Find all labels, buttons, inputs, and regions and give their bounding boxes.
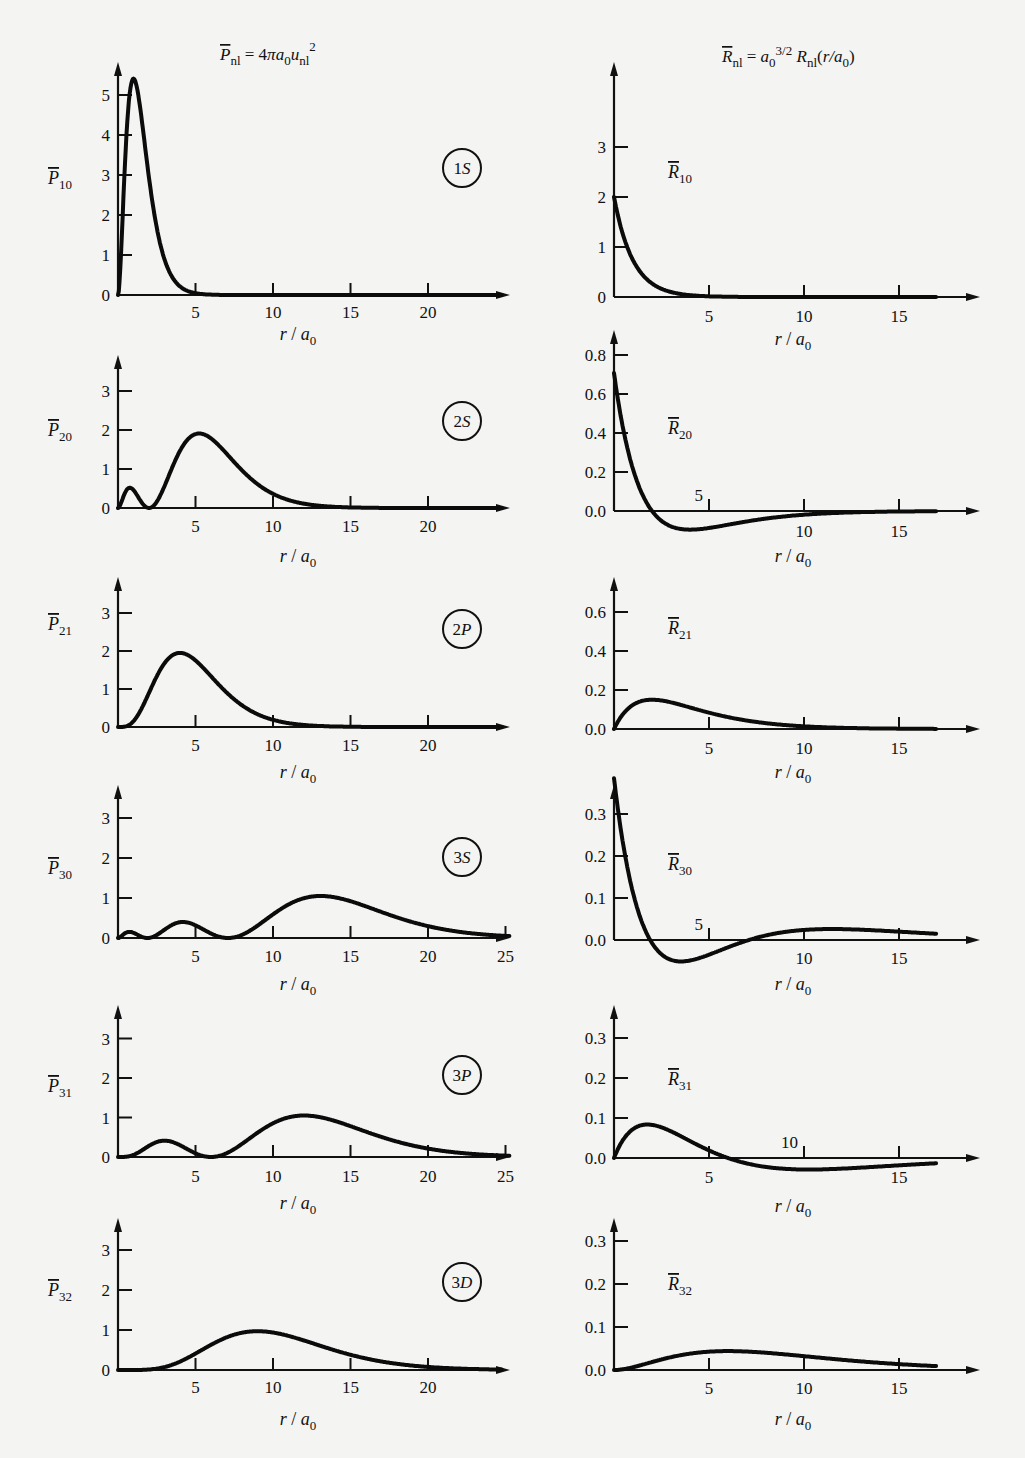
x-tick-label: 20	[420, 947, 437, 966]
x-tick-label: 10	[265, 517, 282, 536]
x-axis-label: r / a0	[775, 762, 812, 786]
curve-p21	[118, 653, 502, 727]
x-tick-label: 5	[695, 915, 704, 934]
x-tick-label: 10	[781, 1133, 798, 1152]
y-tick-label: 0.1	[585, 1109, 606, 1128]
x-tick-label: 10	[796, 739, 813, 758]
y-tick-label: 0.3	[585, 805, 606, 824]
y-tick-label: 0.6	[585, 385, 606, 404]
y-tick-label: 0.0	[585, 502, 606, 521]
x-tick-label: 15	[342, 1167, 359, 1186]
y-axis-arrow-icon	[114, 1005, 122, 1019]
x-axis-label: r / a0	[280, 1409, 317, 1433]
y-tick-label: 0	[102, 929, 111, 948]
y-axis-arrow-icon	[114, 62, 122, 76]
panel-p31: 0123510152025r / a0P313P	[47, 1005, 514, 1217]
x-axis-label: r / a0	[775, 1196, 812, 1220]
x-tick-label: 15	[891, 949, 908, 968]
badge-label: 3P	[453, 1066, 472, 1085]
y-tick-label: 2	[102, 1069, 111, 1088]
y-tick-label: 0.1	[585, 1318, 606, 1337]
x-tick-label: 15	[891, 307, 908, 326]
orbital-badge: 3P	[443, 1056, 481, 1094]
y-tick-label: 0	[102, 1148, 111, 1167]
panel-p20: 01235101520r / a0P202S	[47, 355, 510, 570]
badge-label: 2P	[453, 620, 472, 639]
y-tick-label: 1	[102, 1109, 111, 1128]
x-tick-label: 25	[497, 1167, 514, 1186]
curve-label: R32	[667, 1274, 692, 1298]
x-axis-label: r / a0	[280, 974, 317, 998]
x-tick-label: 5	[705, 1379, 714, 1398]
y-tick-label: 3	[598, 138, 607, 157]
y-tick-label: 0.6	[585, 603, 606, 622]
y-tick-label: 0.3	[585, 1232, 606, 1251]
orbital-badge: 2P	[443, 610, 481, 648]
y-tick-label: 2	[102, 642, 111, 661]
y-tick-label: 0.2	[585, 1275, 606, 1294]
curve-label: R20	[667, 418, 692, 442]
y-axis-arrow-icon	[114, 355, 122, 369]
y-tick-label: 3	[102, 1241, 111, 1260]
y-tick-label: 5	[102, 86, 111, 105]
x-axis-arrow-icon	[966, 293, 980, 301]
x-axis-label: r / a0	[775, 1409, 812, 1433]
right-column-title: Rnl = a03/2 Rnl(r/a0)	[721, 43, 855, 70]
y-tick-label: 0	[102, 286, 111, 305]
y-tick-label: 0	[102, 1361, 111, 1380]
x-tick-label: 20	[420, 517, 437, 536]
x-axis-arrow-icon	[966, 936, 980, 944]
x-tick-label: 15	[342, 1378, 359, 1397]
x-tick-label: 20	[420, 1378, 437, 1397]
x-tick-label: 15	[891, 739, 908, 758]
x-tick-label: 20	[420, 736, 437, 755]
curve-label: R21	[667, 618, 692, 642]
curve-r21	[614, 700, 936, 729]
orbital-badge: 3D	[443, 1263, 481, 1301]
y-tick-label: 4	[102, 126, 111, 145]
x-tick-label: 5	[705, 307, 714, 326]
y-tick-label: 2	[102, 421, 111, 440]
curve-label: R10	[667, 162, 692, 186]
y-tick-label: 0.4	[585, 642, 607, 661]
x-tick-label: 15	[891, 522, 908, 541]
panel-r10: 012351015r / a0R10	[598, 62, 981, 353]
y-tick-label: 0.2	[585, 681, 606, 700]
curve-p32	[118, 1331, 502, 1370]
y-tick-label: 0.4	[585, 424, 607, 443]
curve-r30	[614, 778, 936, 961]
curve-p30	[118, 896, 509, 938]
x-tick-label: 10	[265, 1167, 282, 1186]
y-tick-label: 0.1	[585, 889, 606, 908]
y-tick-label: 1	[102, 680, 111, 699]
y-tick-label: 1	[598, 238, 607, 257]
y-axis-label: P20	[47, 420, 72, 444]
badge-label: 3S	[454, 848, 472, 867]
x-tick-label: 5	[705, 739, 714, 758]
y-axis-label: P32	[47, 1280, 72, 1304]
x-axis-label: r / a0	[775, 974, 812, 998]
x-tick-label: 5	[705, 1168, 714, 1187]
badge-label: 2S	[454, 412, 472, 431]
curve-label: R30	[667, 854, 692, 878]
y-axis-arrow-icon	[114, 577, 122, 591]
x-tick-label: 10	[265, 1378, 282, 1397]
curve-r31	[614, 1125, 936, 1170]
x-tick-label: 5	[191, 1378, 200, 1397]
x-tick-label: 15	[342, 517, 359, 536]
panel-p30: 0123510152025r / a0P303S	[47, 785, 514, 998]
y-tick-label: 0	[102, 499, 111, 518]
x-axis-label: r / a0	[775, 546, 812, 570]
x-tick-label: 15	[891, 1379, 908, 1398]
y-tick-label: 1	[102, 246, 111, 265]
left-column-title: Pnl = 4πa0unl2	[219, 39, 316, 68]
x-axis-arrow-icon	[966, 1154, 980, 1162]
y-axis-arrow-icon	[610, 62, 618, 76]
x-tick-label: 20	[420, 1167, 437, 1186]
y-tick-label: 0.0	[585, 1361, 606, 1380]
x-axis-label: r / a0	[775, 329, 812, 353]
y-axis-arrow-icon	[610, 577, 618, 591]
badge-label: 3D	[452, 1273, 474, 1292]
y-tick-label: 1	[102, 460, 111, 479]
y-tick-label: 0.0	[585, 931, 606, 950]
